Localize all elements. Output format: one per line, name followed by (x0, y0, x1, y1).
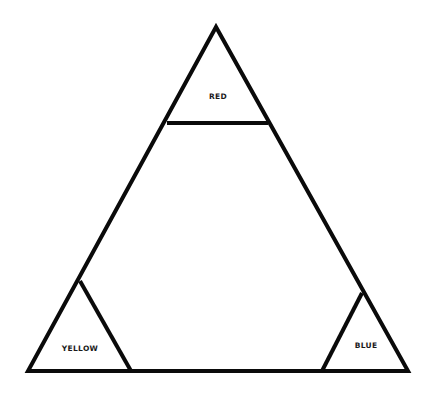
color-triangle-diagram: RED YELLOW BLUE (0, 0, 433, 400)
red-label: RED (209, 92, 227, 101)
yellow-divider-line (80, 281, 131, 371)
blue-label: BLUE (355, 341, 378, 350)
blue-divider-line (322, 293, 362, 371)
yellow-label: YELLOW (61, 344, 99, 353)
outer-triangle (28, 27, 408, 371)
